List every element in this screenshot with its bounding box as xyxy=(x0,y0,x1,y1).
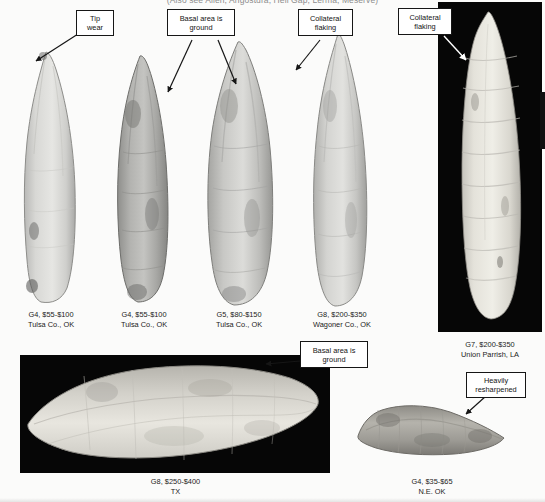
margin-print-bar xyxy=(540,92,545,149)
caption-point-7-provenance: N.E. OK xyxy=(372,487,492,497)
caption-point-5: G7, $200-$350 Union Parrish, LA xyxy=(438,340,542,359)
caption-point-7-grade: G4, $35-$65 xyxy=(372,477,492,487)
callout-basal-ground-bottom-text: Basal area is ground xyxy=(313,346,356,364)
caption-point-2-grade: G4, $55-$100 xyxy=(103,310,185,320)
caption-point-7: G4, $35-$65 N.E. OK xyxy=(372,477,492,496)
artifact-photo-point-4 xyxy=(302,32,376,308)
scan-bottom-edge xyxy=(0,498,545,502)
caption-point-3-grade: G5, $80-$150 xyxy=(198,310,280,320)
caption-point-2-provenance: Tulsa Co., OK xyxy=(103,320,185,330)
callout-tip-wear-text: Tip wear xyxy=(87,14,103,32)
caption-point-5-provenance: Union Parrish, LA xyxy=(438,350,542,360)
callout-tip-wear[interactable]: Tip wear xyxy=(76,10,114,36)
callout-heavily-resharpened-text: Heavily resharpened xyxy=(475,376,517,394)
caption-point-1-grade: G4, $55-$100 xyxy=(10,310,92,320)
caption-point-3: G5, $80-$150 Tulsa Co., OK xyxy=(198,310,280,329)
caption-point-6: G8, $250-$400 TX xyxy=(108,477,243,496)
artifact-photo-point-7 xyxy=(352,396,512,468)
callout-collateral-flaking-2-text: Collateral flaking xyxy=(409,13,440,31)
caption-point-2: G4, $55-$100 Tulsa Co., OK xyxy=(103,310,185,329)
artifact-photo-point-1 xyxy=(12,50,88,305)
callout-collateral-flaking-2[interactable]: Collateral flaking xyxy=(398,8,452,35)
callout-basal-ground-bottom[interactable]: Basal area is ground xyxy=(300,341,368,368)
caption-point-3-provenance: Tulsa Co., OK xyxy=(198,320,280,330)
page-header-text: (Also see Allen, Angostura, Hell Gap, Le… xyxy=(167,0,378,5)
caption-point-4: G8, $200-$350 Wagoner Co., OK xyxy=(296,310,388,329)
caption-point-1: G4, $55-$100 Tulsa Co., OK xyxy=(10,310,92,329)
caption-point-1-provenance: Tulsa Co., OK xyxy=(10,320,92,330)
artifact-photo-point-6 xyxy=(24,362,324,466)
caption-point-5-grade: G7, $200-$350 xyxy=(438,340,542,350)
callout-collateral-flaking-1[interactable]: Collateral flaking xyxy=(298,9,353,36)
artifact-photo-point-2 xyxy=(104,54,180,304)
artifact-photo-point-3 xyxy=(196,40,284,308)
caption-point-6-provenance: TX xyxy=(108,487,243,497)
callout-heavily-resharpened[interactable]: Heavily resharpened xyxy=(466,372,526,398)
artifact-photo-point-5 xyxy=(453,10,527,322)
caption-point-4-grade: G8, $200-$350 xyxy=(296,310,388,320)
callout-collateral-flaking-1-text: Collateral flaking xyxy=(310,14,341,32)
callout-basal-ground-top[interactable]: Basal area is ground xyxy=(167,9,235,36)
caption-point-4-provenance: Wagoner Co., OK xyxy=(296,320,388,330)
caption-point-6-grade: G8, $250-$400 xyxy=(108,477,243,487)
callout-basal-ground-top-text: Basal area is ground xyxy=(180,14,223,32)
